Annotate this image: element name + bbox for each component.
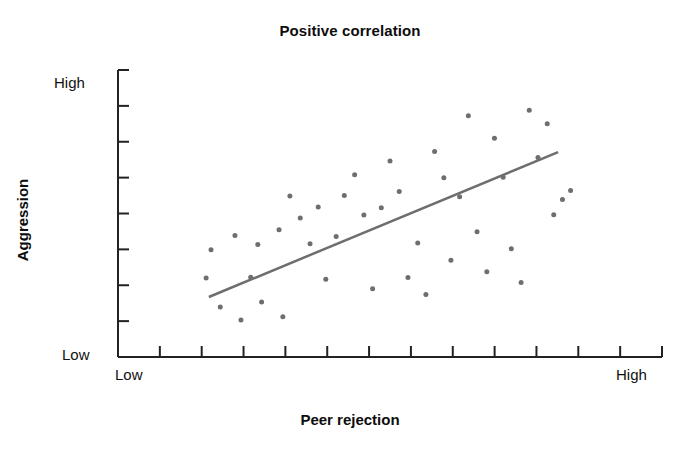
scatter-point: [492, 136, 497, 141]
scatter-point: [501, 175, 506, 180]
scatter-point: [204, 276, 209, 281]
scatter-point: [342, 193, 347, 198]
scatter-point: [334, 234, 339, 239]
scatter-point: [545, 121, 550, 126]
scatter-point: [466, 113, 471, 118]
scatter-point: [218, 305, 223, 310]
scatter-point: [448, 258, 453, 263]
scatter-point: [535, 155, 540, 160]
scatter-point: [277, 227, 282, 232]
scatter-point: [423, 292, 428, 297]
y-axis-ticks: [118, 70, 129, 321]
figure-container: Positive correlation Aggression Peer rej…: [0, 0, 700, 452]
scatter-point: [352, 172, 357, 177]
axes-group: [118, 70, 662, 357]
scatter-point: [432, 149, 437, 154]
scatter-point: [287, 193, 292, 198]
scatter-plot-canvas: [0, 0, 700, 452]
scatter-point: [475, 229, 480, 234]
scatter-point: [238, 317, 243, 322]
scatter-point: [519, 280, 524, 285]
scatter-point: [441, 175, 446, 180]
scatter-point: [388, 158, 393, 163]
scatter-point: [415, 241, 420, 246]
scatter-point: [298, 216, 303, 221]
scatter-point: [308, 241, 313, 246]
scatter-point: [527, 108, 532, 113]
scatter-point: [323, 277, 328, 282]
scatter-point: [255, 242, 260, 247]
scatter-point: [259, 299, 264, 304]
scatter-point: [568, 188, 573, 193]
scatter-point: [457, 194, 462, 199]
x-axis-ticks: [160, 346, 662, 357]
scatter-points: [204, 108, 573, 323]
scatter-point: [361, 212, 366, 217]
scatter-point: [397, 189, 402, 194]
scatter-point: [379, 205, 384, 210]
scatter-point: [509, 246, 514, 251]
scatter-point: [484, 269, 489, 274]
scatter-point: [209, 247, 214, 252]
scatter-point: [370, 286, 375, 291]
scatter-point: [560, 197, 565, 202]
trendline-segment: [209, 152, 558, 297]
scatter-point: [316, 204, 321, 209]
scatter-point: [405, 275, 410, 280]
scatter-point: [551, 212, 556, 217]
scatter-point: [280, 314, 285, 319]
trendline: [209, 152, 558, 297]
scatter-point: [248, 275, 253, 280]
scatter-point: [232, 233, 237, 238]
